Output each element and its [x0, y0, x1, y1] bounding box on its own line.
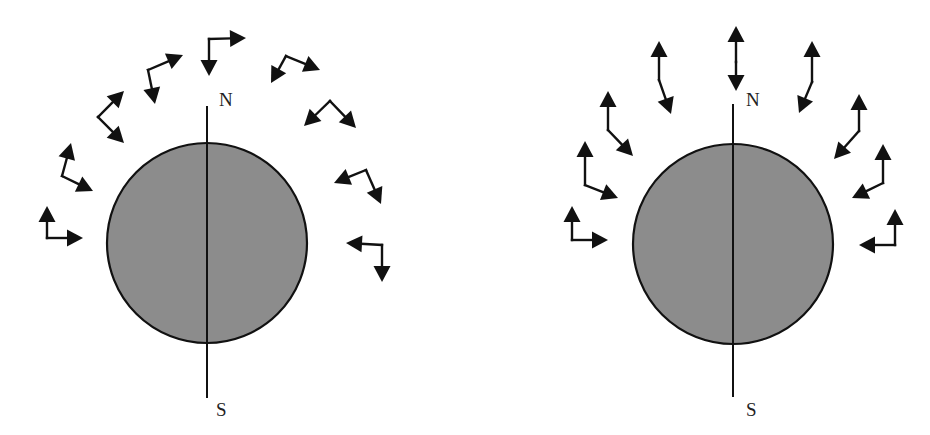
south-label-left: S: [216, 399, 227, 420]
arrow-pair-icon: [334, 169, 382, 204]
north-label-right: N: [746, 89, 760, 110]
arrowhead-icon: [651, 41, 668, 57]
arrowhead-icon: [346, 235, 362, 252]
arrow-pair-icon: [59, 143, 93, 192]
arrow-shaft: [98, 117, 113, 132]
arrowhead-icon: [851, 94, 868, 110]
arrowhead-icon: [67, 230, 83, 247]
arrowhead-icon: [230, 30, 246, 47]
arrowhead-icon: [887, 209, 904, 225]
arrow-shaft: [659, 80, 666, 99]
arrow-pair-icon: [600, 91, 634, 156]
arrowhead-icon: [592, 232, 608, 249]
arrow-shaft: [866, 183, 883, 191]
arrow-shaft: [362, 244, 382, 245]
arrowhead-icon: [59, 143, 75, 161]
arrow-shaft: [98, 102, 113, 117]
arrow-shaft: [62, 176, 79, 184]
arrow-shaft: [148, 61, 168, 70]
arrow-pair-icon: [271, 56, 320, 83]
arrow-shaft: [279, 56, 286, 69]
arrowhead-icon: [201, 60, 218, 76]
arrow-shaft: [805, 82, 812, 98]
figure-canvas: N S N S: [0, 0, 930, 435]
arrow-shaft: [845, 131, 859, 147]
north-label-left: N: [219, 89, 233, 110]
panel-left: N S: [39, 30, 391, 420]
arrowhead-icon: [859, 237, 875, 254]
arrow-pair-icon: [98, 91, 124, 143]
arrow-shaft: [366, 170, 375, 189]
arrowhead-icon: [875, 144, 892, 160]
arrowhead-icon: [600, 91, 617, 107]
arrowhead-icon: [804, 41, 821, 57]
arrow-shaft: [585, 185, 603, 192]
arrow-pair-icon: [651, 41, 674, 114]
arrow-shaft: [286, 56, 305, 64]
arrow-pair-icon: [797, 41, 820, 113]
arrow-shaft: [349, 170, 366, 177]
arrow-shaft: [209, 38, 230, 39]
arrow-shaft: [608, 130, 622, 144]
arrow-shaft: [330, 101, 345, 116]
arrow-pair-icon: [859, 209, 904, 254]
arrow-pair-icon: [201, 30, 247, 76]
arrow-shaft: [62, 158, 67, 176]
arrowhead-icon: [143, 87, 160, 104]
arrow-pair-icon: [834, 94, 868, 159]
arrowhead-icon: [577, 141, 594, 157]
arrow-shaft: [316, 101, 330, 115]
arrow-pair-icon: [346, 235, 391, 282]
arrowhead-icon: [564, 206, 581, 222]
arrowhead-icon: [728, 75, 745, 91]
arrow-pair-icon: [143, 53, 183, 104]
arrow-pair-icon: [852, 144, 892, 199]
arrow-pair-icon: [39, 206, 84, 247]
arrow-pair-icon: [304, 101, 356, 128]
south-label-right: S: [746, 399, 757, 420]
arrowhead-icon: [39, 206, 56, 222]
arrow-pair-icon: [577, 141, 619, 200]
arrow-shaft: [148, 70, 152, 88]
arrowhead-icon: [374, 266, 391, 282]
panel-right: N S: [564, 26, 904, 420]
arrow-pair-icon: [728, 26, 745, 91]
arrow-pair-icon: [564, 206, 609, 249]
arrowhead-icon: [728, 26, 745, 42]
